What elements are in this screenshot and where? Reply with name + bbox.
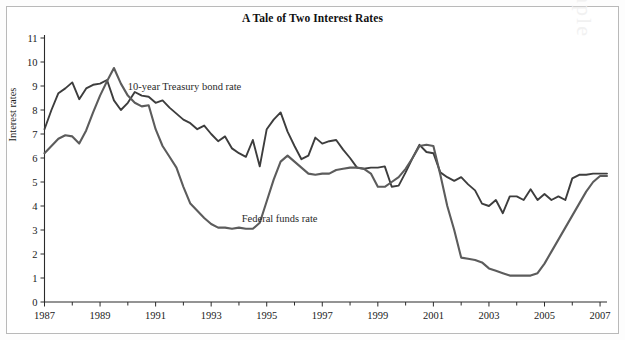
y-tick-label: 5 <box>32 177 37 188</box>
x-tick-label: 1987 <box>34 310 55 321</box>
series-line-2 <box>45 68 608 276</box>
x-tick-label: 1999 <box>367 310 388 321</box>
series-line-1 <box>45 80 608 213</box>
y-axis-ticks: 01234567891011 <box>27 33 45 308</box>
series-lines <box>45 68 608 276</box>
annotation-label-1: 10-year Treasury bond rate <box>128 81 242 92</box>
y-tick-label: 9 <box>32 81 37 92</box>
y-tick-label: 10 <box>27 57 38 68</box>
annotation-label-2: Federal funds rate <box>242 213 318 224</box>
chart-figure: Sample A Tale of Two Interest Rates Inte… <box>0 0 625 340</box>
y-tick-label: 0 <box>32 297 37 308</box>
plot-area: 01234567891011 1987198919911993199519971… <box>0 0 625 340</box>
y-tick-label: 1 <box>32 273 37 284</box>
x-tick-label: 1993 <box>201 310 222 321</box>
y-tick-label: 11 <box>27 33 37 44</box>
y-tick-label: 3 <box>32 225 37 236</box>
y-tick-label: 8 <box>32 105 37 116</box>
x-axis-ticks: 1987198919911993199519971999200120032005… <box>34 302 611 321</box>
axis-frame <box>45 35 608 302</box>
x-tick-label: 1991 <box>145 310 166 321</box>
y-tick-label: 7 <box>32 129 37 140</box>
x-tick-label: 1995 <box>256 310 277 321</box>
y-tick-label: 4 <box>32 201 38 212</box>
x-tick-label: 2001 <box>423 310 444 321</box>
y-tick-label: 2 <box>32 249 37 260</box>
x-tick-label: 1989 <box>90 310 111 321</box>
y-tick-label: 6 <box>32 153 37 164</box>
x-tick-label: 2003 <box>478 310 499 321</box>
x-tick-label: 2005 <box>534 310 555 321</box>
x-tick-label: 1997 <box>312 310 333 321</box>
x-tick-label: 2007 <box>590 310 611 321</box>
